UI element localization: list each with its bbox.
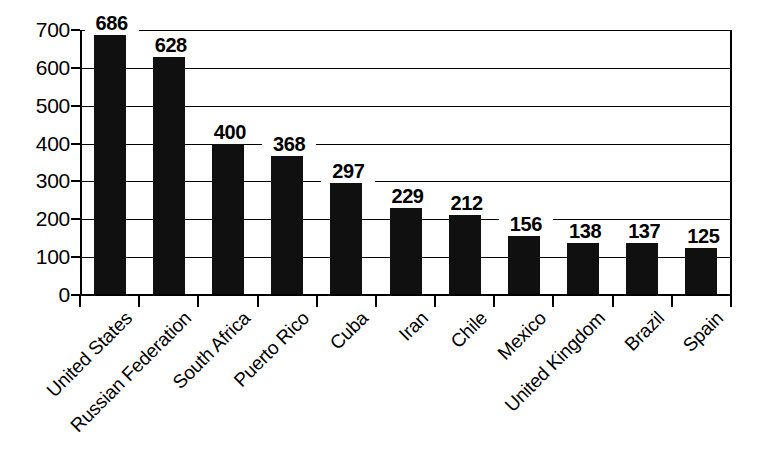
bar-value-label: 125 (676, 225, 730, 248)
bar (508, 236, 540, 295)
gridline (80, 30, 731, 31)
y-tick-mark (71, 256, 80, 258)
x-tick-mark (79, 296, 81, 307)
x-tick-mark (434, 296, 436, 307)
x-tick-mark (730, 296, 732, 307)
x-tick-mark (375, 296, 377, 307)
x-tick-mark (552, 296, 554, 307)
x-tick-mark (138, 296, 140, 307)
x-axis-line (80, 294, 732, 296)
bar-value-label: 229 (381, 185, 435, 208)
x-tick-mark (316, 296, 318, 307)
y-axis-line (80, 30, 82, 296)
bar (212, 144, 244, 295)
bar-value-label: 137 (617, 220, 671, 243)
bar (449, 215, 481, 295)
x-category-label: Iran (395, 308, 431, 344)
bar (390, 208, 422, 295)
y-tick-label: 700 (10, 19, 70, 40)
x-category-label: Cuba (327, 308, 372, 353)
bar (685, 248, 717, 295)
y-tick-label: 200 (10, 208, 70, 229)
bar (94, 35, 126, 295)
y-tick-label: 400 (10, 133, 70, 154)
y-tick-mark (71, 29, 80, 31)
x-tick-mark (612, 296, 614, 307)
bar (271, 156, 303, 295)
x-category-label: Brazil (621, 308, 667, 354)
x-tick-mark (197, 296, 199, 307)
bar-value-label: 138 (558, 220, 612, 243)
bar-value-label: 628 (144, 34, 198, 57)
bar-value-label: 686 (85, 12, 139, 35)
x-category-label: Chile (447, 308, 490, 351)
plot-right-border (730, 30, 732, 296)
y-tick-mark (71, 180, 80, 182)
x-category-label: Mexico (494, 308, 549, 363)
x-tick-mark (671, 296, 673, 307)
bar (567, 243, 599, 295)
bar-value-label: 212 (440, 192, 494, 215)
plot-area (80, 30, 731, 295)
bar-value-label: 297 (321, 160, 375, 183)
x-tick-mark (257, 296, 259, 307)
bar (153, 57, 185, 295)
bar-value-label: 156 (499, 213, 553, 236)
y-tick-mark (71, 143, 80, 145)
y-tick-mark (71, 218, 80, 220)
bar-value-label: 368 (262, 133, 316, 156)
y-tick-label: 100 (10, 246, 70, 267)
y-tick-mark (71, 105, 80, 107)
bar (626, 243, 658, 295)
bar (330, 183, 362, 295)
y-tick-label: 300 (10, 170, 70, 191)
bar-value-label: 400 (203, 121, 257, 144)
y-tick-label: 0 (10, 284, 70, 305)
bar-chart: 0100200300400500600700 68662840036829722… (0, 0, 766, 457)
x-category-label: Spain (680, 308, 727, 355)
y-tick-label: 600 (10, 57, 70, 78)
x-tick-mark (493, 296, 495, 307)
y-tick-label: 500 (10, 95, 70, 116)
y-tick-mark (71, 67, 80, 69)
